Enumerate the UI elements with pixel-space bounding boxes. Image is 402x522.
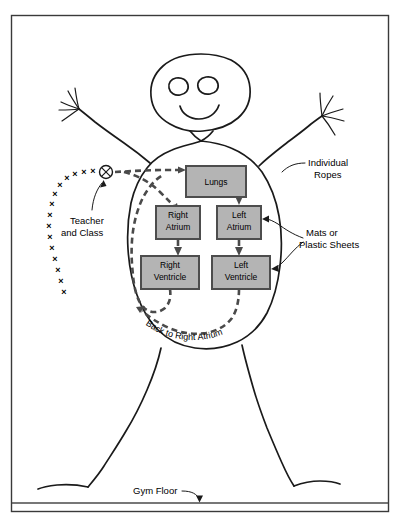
station-left-atrium-label-1: Left bbox=[232, 210, 247, 220]
station-left-ventricle-label-2: Ventricle bbox=[225, 272, 258, 282]
station-lungs-label: Lungs bbox=[204, 177, 227, 187]
annotation-individual-ropes-line1: Individual bbox=[308, 157, 348, 168]
svg-text:×: × bbox=[58, 276, 63, 286]
station-boxes: Lungs Right Atrium Left Atrium Right Ven… bbox=[141, 166, 270, 289]
individual-ropes-leader bbox=[282, 163, 305, 172]
mats-arrow-lower bbox=[271, 265, 279, 272]
teacher-and-class-group: × × × × × × × × × × × × × × × Teacher an… bbox=[46, 166, 112, 298]
svg-text:×: × bbox=[72, 169, 77, 179]
station-left-ventricle[interactable]: Left Ventricle bbox=[212, 256, 270, 289]
flow-right-ventricle-loop bbox=[132, 175, 171, 312]
station-left-atrium[interactable]: Left Atrium bbox=[217, 206, 261, 239]
teacher-symbol-icon bbox=[100, 166, 113, 179]
annotation-individual-ropes-line2: Ropes bbox=[314, 169, 342, 180]
station-right-atrium-label-1: Right bbox=[168, 210, 188, 220]
right-annotations: Individual Ropes Mats or Plastic Sheets bbox=[262, 157, 359, 272]
station-left-atrium-label-2: Atrium bbox=[227, 222, 252, 232]
station-right-atrium-label-2: Atrium bbox=[166, 222, 191, 232]
svg-text:×: × bbox=[46, 221, 51, 231]
left-leg bbox=[88, 348, 161, 487]
svg-text:×: × bbox=[81, 167, 86, 177]
station-lungs[interactable]: Lungs bbox=[186, 166, 246, 197]
right-eye-icon bbox=[198, 77, 218, 94]
annotation-mats-line2: Plastic Sheets bbox=[299, 239, 359, 250]
annotation-mats-line1: Mats or bbox=[306, 227, 338, 238]
station-right-atrium[interactable]: Right Atrium bbox=[156, 206, 200, 239]
left-arm bbox=[79, 109, 150, 163]
svg-text:×: × bbox=[52, 189, 57, 199]
svg-text:×: × bbox=[55, 265, 60, 275]
flow-arrow-lungs bbox=[178, 167, 186, 174]
left-hand bbox=[59, 88, 79, 121]
station-right-ventricle-label-2: Ventricle bbox=[154, 272, 187, 282]
svg-text:×: × bbox=[47, 232, 52, 242]
station-left-ventricle-label-1: Left bbox=[234, 260, 249, 270]
flow-arrow-right-ventricle bbox=[174, 247, 182, 256]
svg-text:×: × bbox=[47, 210, 52, 220]
svg-text:×: × bbox=[49, 243, 54, 253]
annotation-teacher-class-line2: and Class bbox=[61, 227, 103, 238]
left-foot bbox=[38, 485, 88, 489]
gym-floor-arrow bbox=[196, 496, 203, 503]
svg-text:×: × bbox=[57, 180, 62, 190]
right-leg bbox=[242, 345, 294, 486]
svg-text:×: × bbox=[90, 166, 95, 176]
svg-text:×: × bbox=[52, 254, 57, 264]
station-right-ventricle[interactable]: Right Ventricle bbox=[141, 256, 199, 289]
station-right-ventricle-label-1: Right bbox=[160, 260, 180, 270]
gym-floor-group: Gym Floor bbox=[12, 485, 388, 503]
gym-floor-leader bbox=[182, 491, 199, 499]
annotation-teacher-class-line1: Teacher bbox=[70, 215, 104, 226]
mats-leader-upper bbox=[266, 219, 303, 238]
right-hand bbox=[320, 93, 344, 135]
svg-text:×: × bbox=[64, 173, 69, 183]
svg-text:×: × bbox=[49, 199, 54, 209]
neck bbox=[190, 131, 213, 141]
mats-arrow-upper bbox=[262, 216, 269, 223]
left-eye-icon bbox=[169, 78, 188, 95]
annotation-gym-floor: Gym Floor bbox=[133, 485, 177, 496]
flow-arrow-left-ventricle bbox=[235, 247, 243, 256]
smile-icon bbox=[180, 105, 219, 119]
diagram-canvas: Back to Right Atrium Lungs Right Atrium … bbox=[0, 0, 402, 522]
svg-text:×: × bbox=[61, 287, 66, 297]
right-foot bbox=[294, 481, 340, 486]
